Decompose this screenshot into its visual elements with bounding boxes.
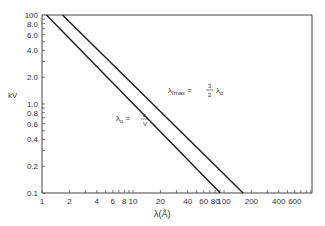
x-tick-label: 8	[122, 197, 127, 206]
x-tick-label: 1	[40, 197, 45, 206]
chart: 124681020406080100200400600 1008.06.04.0…	[0, 0, 325, 226]
series-line-0	[46, 15, 220, 193]
svg-text:c: c	[143, 112, 146, 118]
x-tick-label: 6	[111, 197, 116, 206]
x-tick-label: 400	[272, 197, 286, 206]
y-tick-label: 0.8	[27, 109, 39, 118]
x-tick-label: 100	[217, 197, 231, 206]
x-tick-label: 2	[67, 197, 72, 206]
y-tick-label: 0.1	[27, 189, 39, 198]
y-tick-label: 4.0	[27, 46, 39, 55]
y-tick-label: 6.0	[27, 31, 39, 40]
svg-text:λo: λo	[216, 86, 224, 96]
svg-text:V: V	[143, 121, 147, 127]
x-tick-label: 4	[95, 197, 100, 206]
plot-frame	[42, 15, 312, 193]
annotation-lambda-o: λo = c V	[116, 112, 149, 127]
y-axis-label: kV	[8, 91, 18, 100]
svg-text:λo =: λo =	[116, 114, 131, 124]
svg-text:3: 3	[208, 83, 212, 89]
x-tick-label: 40	[183, 197, 192, 206]
series-lines	[46, 15, 243, 193]
x-tick-label: 10	[129, 197, 138, 206]
x-tick-label: 200	[245, 197, 259, 206]
x-axis-label: λ(Å)	[154, 209, 171, 219]
plot-border	[42, 15, 312, 193]
y-tick-label: 0.6	[27, 120, 39, 129]
y-tick-label: 2.0	[27, 73, 39, 82]
annotation-lambda-imax: λImax = 3 2 λo	[168, 83, 224, 98]
x-tick-label: 600	[288, 197, 302, 206]
y-tick-label: 0.4	[27, 135, 39, 144]
x-tick-label: 60	[199, 197, 208, 206]
svg-text:λImax =: λImax =	[168, 86, 192, 96]
svg-text:2: 2	[208, 92, 212, 98]
y-tick-label: 8.0	[27, 20, 39, 29]
series-line-1	[63, 15, 244, 193]
x-tick-label: 20	[156, 197, 165, 206]
y-tick-label: 0.2	[27, 162, 39, 171]
x-axis-ticks: 124681020406080100200400600	[40, 190, 311, 206]
